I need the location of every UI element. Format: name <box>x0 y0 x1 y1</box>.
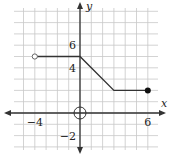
closed-endpoint-icon <box>145 87 151 93</box>
x-axis-label: x <box>161 97 168 110</box>
y-axis-up-arrow-icon <box>77 2 83 9</box>
y-tick-label: 4 <box>69 62 76 75</box>
x-tick-label: 6 <box>144 116 151 129</box>
x-axis-right-arrow-icon <box>159 110 166 116</box>
y-axis-down-arrow-icon <box>77 147 83 154</box>
axes: xy <box>4 0 168 154</box>
y-tick-label: 6 <box>69 39 76 52</box>
x-tick-label: −4 <box>27 116 43 129</box>
x-axis-left-arrow-icon <box>4 110 11 116</box>
y-tick-label: −2 <box>60 130 76 143</box>
graph: xy −4664−2 <box>0 0 170 155</box>
open-endpoint-icon <box>32 54 37 59</box>
y-axis-label: y <box>85 0 93 13</box>
